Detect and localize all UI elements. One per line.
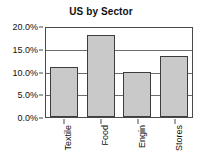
- x-tick-label-food: Food: [101, 125, 110, 146]
- x-tick-mark: [137, 119, 138, 124]
- x-tick-label-engin: Engin: [138, 125, 147, 148]
- x-tick-mark: [63, 119, 64, 124]
- y-tick-label: 20.0%: [12, 23, 38, 32]
- y-tick-label: 10.0%: [12, 68, 38, 77]
- x-tick-label-textile: Textile: [64, 125, 73, 151]
- y-tick-mark: [39, 72, 43, 73]
- bar-textile: [50, 67, 78, 117]
- y-tick-mark: [39, 118, 43, 119]
- x-tick-label-stores: Stores: [175, 125, 184, 151]
- chart-container: US by Sector 20.0% 15.0% 10.0% 5.0% 0.0%…: [0, 0, 202, 167]
- y-tick-label: 15.0%: [12, 45, 38, 54]
- plot-area: [45, 27, 193, 118]
- bar-engin: [123, 72, 151, 117]
- y-tick-label: 0.0%: [17, 114, 38, 123]
- chart-title: US by Sector: [0, 6, 202, 18]
- x-tick-mark: [100, 119, 101, 124]
- x-axis: Textile Food Engin Stores: [45, 119, 193, 167]
- bar-stores: [160, 56, 188, 117]
- x-tick-mark: [174, 119, 175, 124]
- y-tick-mark: [39, 27, 43, 28]
- bar-food: [87, 35, 115, 117]
- y-tick-mark: [39, 95, 43, 96]
- gridline-15: [46, 50, 192, 51]
- y-axis: 20.0% 15.0% 10.0% 5.0% 0.0%: [0, 27, 43, 118]
- y-tick-mark: [39, 49, 43, 50]
- y-tick-label: 5.0%: [17, 91, 38, 100]
